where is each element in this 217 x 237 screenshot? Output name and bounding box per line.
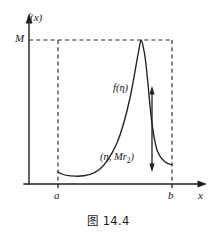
y-axis-max-tick-label: M <box>15 33 24 44</box>
x-tick-label-b: b <box>168 190 174 201</box>
y-axis-label: f(x) <box>27 12 42 23</box>
ordinate-lower-arrowhead <box>149 164 154 173</box>
ordinate-upper-arrowhead <box>149 86 154 95</box>
function-plot <box>0 0 217 210</box>
x-axis-label: x <box>198 190 203 201</box>
point-coordinate-label: (η, Mr2) <box>100 152 134 165</box>
curve-value-label: f(η) <box>113 83 128 94</box>
point-label-prefix: (η, Mr <box>100 151 127 162</box>
figure-container: f(x) M a b x f(η) (η, Mr2) 图 14.4 <box>0 0 217 237</box>
figure-caption: 图 14.4 <box>0 212 217 228</box>
x-tick-label-a: a <box>54 190 60 201</box>
point-label-suffix: ) <box>131 151 135 162</box>
x-axis-arrowhead <box>198 181 208 188</box>
